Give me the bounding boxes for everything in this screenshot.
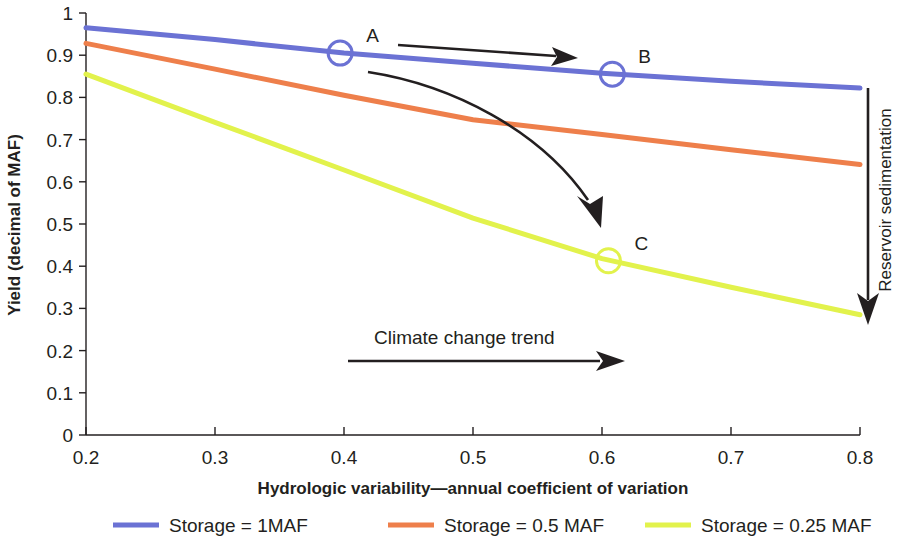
marker-label-a: A [366,25,379,46]
yield-vs-hydrologic-variability-chart: 00.10.20.30.40.50.60.70.80.91 0.20.30.40… [0,0,904,544]
series-line-storage-0-25-maf [86,74,860,315]
y-tick-label: 0.7 [47,130,73,151]
x-tick-label: 0.2 [73,447,99,468]
climate-trend-arrow-head [596,351,625,371]
x-tick-label: 0.4 [331,447,358,468]
x-axis-ticks: 0.20.30.40.50.60.70.8 [73,427,873,468]
x-tick-label: 0.6 [589,447,615,468]
y-tick-label: 0 [62,425,73,446]
x-tick-label: 0.5 [460,447,486,468]
reservoir-sedimentation-label: Reservoir sedimentation [876,108,895,291]
chart-legend: Storage = 1MAFStorage = 0.5 MAFStorage =… [113,515,872,536]
a-to-c-arrow [368,72,603,228]
reservoir-sedimentation-arrow: Reservoir sedimentation [857,88,895,325]
x-tick-label: 0.7 [718,447,744,468]
y-axis-ticks: 00.10.20.30.40.50.60.70.80.91 [47,3,86,446]
legend-label-0: Storage = 1MAF [169,515,308,536]
y-tick-label: 0.1 [47,383,73,404]
y-tick-label: 0.4 [47,256,74,277]
y-tick-label: 0.6 [47,172,73,193]
y-tick-label: 0.9 [47,45,73,66]
climate-change-trend-arrow: Climate change trend [348,327,625,371]
y-axis-title: Yield (decimal of MAF) [5,134,24,316]
y-tick-label: 0.5 [47,214,73,235]
marker-label-b: B [638,46,651,67]
chart-figure: 00.10.20.30.40.50.60.70.80.91 0.20.30.40… [0,0,904,544]
y-tick-label: 0.3 [47,298,73,319]
a-to-c-arrow-curve [368,72,588,200]
climate-change-trend-label: Climate change trend [374,327,555,348]
legend-label-1: Storage = 0.5 MAF [444,515,604,536]
y-tick-label: 1 [62,3,73,24]
x-axis-title: Hydrologic variability—annual coefficien… [258,479,689,498]
series-line-storage-1maf [86,28,860,88]
x-tick-label: 0.3 [202,447,228,468]
a-to-c-arrow-head [577,196,603,228]
series-lines [86,28,860,315]
y-tick-label: 0.8 [47,87,73,108]
a-to-b-arrow-line [398,45,556,56]
marker-label-c: C [634,233,648,254]
legend-label-2: Storage = 0.25 MAF [701,515,872,536]
chart-axes [86,13,860,435]
x-tick-label: 0.8 [847,447,873,468]
y-tick-label: 0.2 [47,341,73,362]
